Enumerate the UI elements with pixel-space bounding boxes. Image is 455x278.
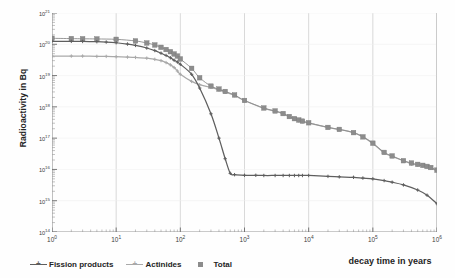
data-point-marker (159, 45, 164, 50)
plot-area (52, 13, 437, 232)
chart-legend: +Fission products+ActinidesTotal (30, 257, 232, 271)
data-point-marker (153, 43, 158, 48)
x-axis-tick-label: 102 (165, 236, 195, 244)
data-point-marker (409, 161, 414, 166)
data-point-marker (223, 89, 228, 94)
y-axis-tick-label: 1018 (26, 104, 50, 111)
data-point-marker (337, 127, 342, 132)
data-point-marker (415, 162, 420, 167)
data-point-marker (232, 93, 237, 98)
y-axis-tick-label: 1015 (26, 198, 50, 205)
data-point-marker (390, 154, 395, 159)
legend-item-total[interactable]: Total (194, 260, 232, 269)
data-point-marker (197, 75, 202, 80)
radioactivity-decay-chart: Radioactivity in Bq 10211020101910181017… (0, 0, 455, 278)
data-point-marker (262, 106, 267, 111)
data-point-marker (401, 158, 406, 163)
data-point-marker (189, 66, 194, 71)
x-axis-tick-label: 104 (294, 236, 324, 244)
data-point-marker (281, 111, 286, 116)
legend-item-label: Actinides (145, 260, 181, 269)
legend-item-fission-products[interactable]: +Fission products (30, 260, 113, 269)
plot-svg (52, 13, 437, 232)
legend-item-actinides[interactable]: +Actinides (126, 260, 181, 269)
y-axis-tick-label: 1019 (26, 73, 50, 80)
legend-item-label: Total (213, 260, 232, 269)
legend-marker-icon (194, 260, 211, 269)
y-axis-tick-label: 1017 (26, 135, 50, 142)
y-axis-tick-label: 1021 (26, 10, 50, 17)
data-point-marker (273, 109, 278, 114)
data-point-marker (351, 130, 356, 135)
data-point-marker (300, 119, 305, 124)
data-point-marker (114, 37, 119, 42)
x-axis-tick-label: 106 (422, 236, 452, 244)
data-point-marker (382, 150, 387, 155)
y-axis-tick-label: 1020 (26, 41, 50, 48)
legend-marker-icon: + (30, 260, 47, 269)
data-point-marker (326, 125, 331, 130)
data-point-marker (178, 57, 183, 62)
data-point-marker (287, 114, 292, 119)
data-point-marker (292, 116, 297, 121)
x-axis-tick-label: 105 (358, 236, 388, 244)
data-point-marker (428, 165, 433, 170)
x-axis-tick-label: 101 (101, 236, 131, 244)
data-point-marker (306, 120, 311, 125)
data-point-marker (371, 141, 376, 146)
data-point-marker (242, 98, 247, 103)
data-point-marker (420, 163, 425, 168)
data-point-marker (209, 84, 214, 89)
legend-marker-icon: + (126, 260, 143, 269)
data-point-marker (144, 41, 149, 46)
x-axis-tick-labels: 100101102103104105106 (52, 236, 437, 250)
y-axis-tick-labels: 10211020101910181017101610151014 (24, 13, 50, 232)
x-axis-tick-label: 100 (37, 236, 67, 244)
data-point-marker (133, 39, 138, 44)
data-point-marker (361, 135, 366, 140)
data-point-marker (164, 47, 169, 52)
x-axis-title: decay time in years (330, 256, 450, 266)
x-axis-tick-label: 103 (230, 236, 260, 244)
legend-item-label: Fission products (49, 260, 113, 269)
y-axis-tick-label: 1016 (26, 166, 50, 173)
data-point-marker (435, 168, 437, 173)
data-point-marker (217, 87, 222, 92)
